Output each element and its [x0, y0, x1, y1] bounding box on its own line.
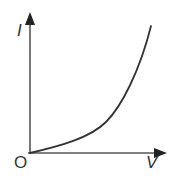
x-axis-label: V	[146, 154, 157, 171]
origin-label: O	[14, 154, 27, 171]
y-axis-arrow-icon	[25, 12, 35, 25]
iv-graph: I V O	[0, 0, 174, 176]
graph-canvas	[0, 0, 174, 176]
y-axis-label: I	[17, 22, 22, 39]
iv-curve	[30, 26, 151, 153]
